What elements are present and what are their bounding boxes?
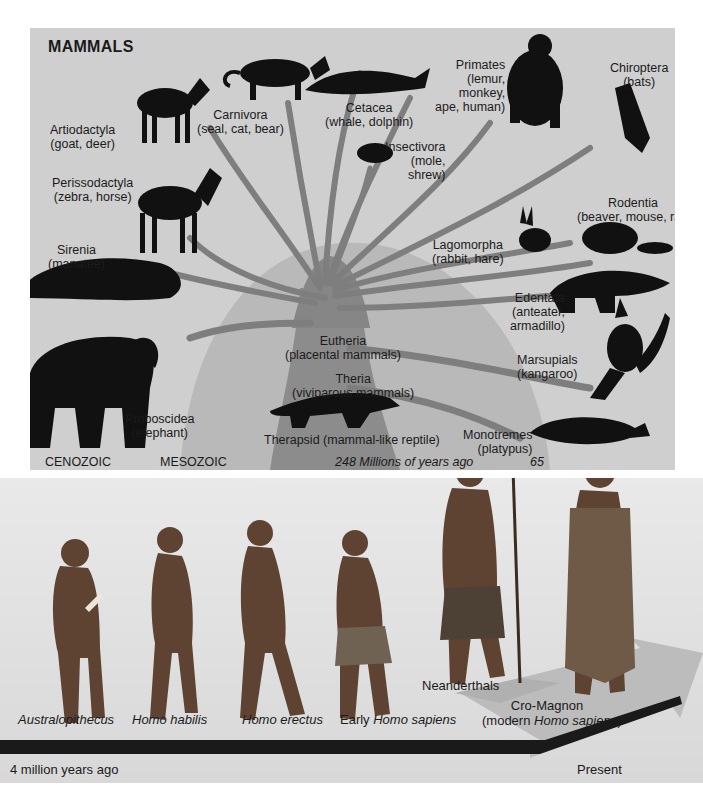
group-name: Therapsid bbox=[264, 433, 320, 447]
group-name: Artiodactyla bbox=[50, 123, 115, 137]
group-examples: (zebra, horse) bbox=[52, 190, 133, 204]
group-examples: (placental mammals) bbox=[285, 348, 401, 362]
label-proboscidea: Proboscidea (elephant) bbox=[125, 412, 195, 440]
group-name: Sirenia bbox=[48, 243, 105, 257]
species-homo-erectus: Homo erectus bbox=[242, 712, 323, 727]
group-examples: (viviparous mammals) bbox=[292, 386, 414, 400]
mammals-panel: MAMMALS Artiodactyla (goat, deer) Carniv… bbox=[30, 28, 675, 470]
timeline-end: Present bbox=[577, 762, 622, 777]
group-name: Edentata bbox=[510, 291, 565, 305]
label-monotremes: Monotremes (platypus) bbox=[463, 428, 532, 456]
label-sirenia: Sirenia (manatee) bbox=[48, 243, 105, 271]
group-name: Marsupials bbox=[517, 353, 577, 367]
group-name: Eutheria bbox=[285, 334, 401, 348]
species-prefix: Early bbox=[340, 712, 373, 727]
group-name: Primates bbox=[435, 58, 505, 72]
group-name: Perissodactyla bbox=[52, 176, 133, 190]
phylogeny-tree-graphic bbox=[30, 28, 675, 470]
human-evolution-graphic bbox=[0, 478, 703, 783]
group-examples: (manatee) bbox=[48, 257, 105, 271]
group-name: Carnivora bbox=[197, 108, 284, 122]
group-name: Lagomorpha bbox=[432, 238, 504, 252]
group-name: Cetacea bbox=[325, 101, 413, 115]
time-caption: Millions of years ago bbox=[359, 455, 473, 469]
species-prefix: Cro-Magnon bbox=[482, 698, 612, 713]
label-artiodactyla: Artiodactyla (goat, deer) bbox=[50, 123, 115, 151]
group-examples: (kangaroo) bbox=[517, 367, 577, 381]
time-scale: 248 Millions of years ago bbox=[335, 455, 473, 469]
species-paren-suffix: ) bbox=[617, 713, 621, 728]
group-examples: (beaver, mouse, rat) bbox=[577, 210, 675, 224]
species-neanderthals: Neanderthals bbox=[422, 678, 499, 693]
time-65: 65 bbox=[530, 455, 544, 469]
label-rodentia: Rodentia (beaver, mouse, rat) bbox=[577, 196, 675, 224]
label-chiroptera: Chiroptera (bats) bbox=[610, 61, 668, 89]
human-evolution-panel: Australopithecus Homo habilis Homo erect… bbox=[0, 478, 703, 783]
group-examples: armadillo) bbox=[510, 319, 565, 333]
label-lagomorpha: Lagomorpha (rabbit, hare) bbox=[432, 238, 504, 266]
species-name: Homo sapiens bbox=[373, 712, 456, 727]
label-edentata: Edentata (anteater, armadillo) bbox=[510, 291, 565, 333]
label-insectivora: Insectivora (mole, shrew) bbox=[385, 140, 445, 182]
group-examples: (bats) bbox=[610, 75, 668, 89]
species-name: Homo sapiens bbox=[534, 713, 617, 728]
group-examples: (platypus) bbox=[463, 442, 532, 456]
group-examples: monkey, bbox=[435, 86, 505, 100]
era-mesozoic: MESOZOIC bbox=[160, 455, 227, 469]
label-carnivora: Carnivora (seal, cat, bear) bbox=[197, 108, 284, 136]
label-cetacea: Cetacea (whale, dolphin) bbox=[325, 101, 413, 129]
group-examples: ape, human) bbox=[435, 100, 505, 114]
group-name: Rodentia bbox=[577, 196, 675, 210]
group-examples: (lemur, bbox=[435, 72, 505, 86]
timeline-start: 4 million years ago bbox=[10, 762, 118, 777]
label-theria: Theria (viviparous mammals) bbox=[292, 372, 414, 400]
group-examples: (anteater, bbox=[510, 305, 565, 319]
species-paren-prefix: (modern bbox=[482, 713, 534, 728]
time-248: 248 bbox=[335, 455, 356, 469]
group-name: Theria bbox=[292, 372, 414, 386]
group-examples: (rabbit, hare) bbox=[432, 252, 504, 266]
label-therapsid: Therapsid (mammal-like reptile) bbox=[264, 433, 440, 447]
group-examples: shrew) bbox=[385, 168, 445, 182]
era-cenozoic: CENOZOIC bbox=[45, 455, 111, 469]
group-name: Chiroptera bbox=[610, 61, 668, 75]
mammals-title: MAMMALS bbox=[48, 38, 134, 56]
label-marsupials: Marsupials (kangaroo) bbox=[517, 353, 577, 381]
species-australopithecus: Australopithecus bbox=[18, 712, 114, 727]
group-examples: (seal, cat, bear) bbox=[197, 122, 284, 136]
label-primates: Primates (lemur, monkey, ape, human) bbox=[435, 58, 505, 114]
group-examples: (elephant) bbox=[125, 426, 195, 440]
group-examples: (mammal-like reptile) bbox=[323, 433, 440, 447]
group-name: Proboscidea bbox=[125, 412, 195, 426]
group-name: Monotremes bbox=[463, 428, 532, 442]
group-examples: (goat, deer) bbox=[50, 137, 115, 151]
label-perissodactyla: Perissodactyla (zebra, horse) bbox=[52, 176, 133, 204]
group-examples: (mole, bbox=[385, 154, 445, 168]
species-early-homo-sapiens: Early Homo sapiens bbox=[340, 712, 456, 727]
species-cro-magnon: Cro-Magnon (modern Homo sapiens) bbox=[482, 698, 612, 728]
group-name: Insectivora bbox=[385, 140, 445, 154]
label-eutheria: Eutheria (placental mammals) bbox=[285, 334, 401, 362]
species-homo-habilis: Homo habilis bbox=[132, 712, 207, 727]
group-examples: (whale, dolphin) bbox=[325, 115, 413, 129]
